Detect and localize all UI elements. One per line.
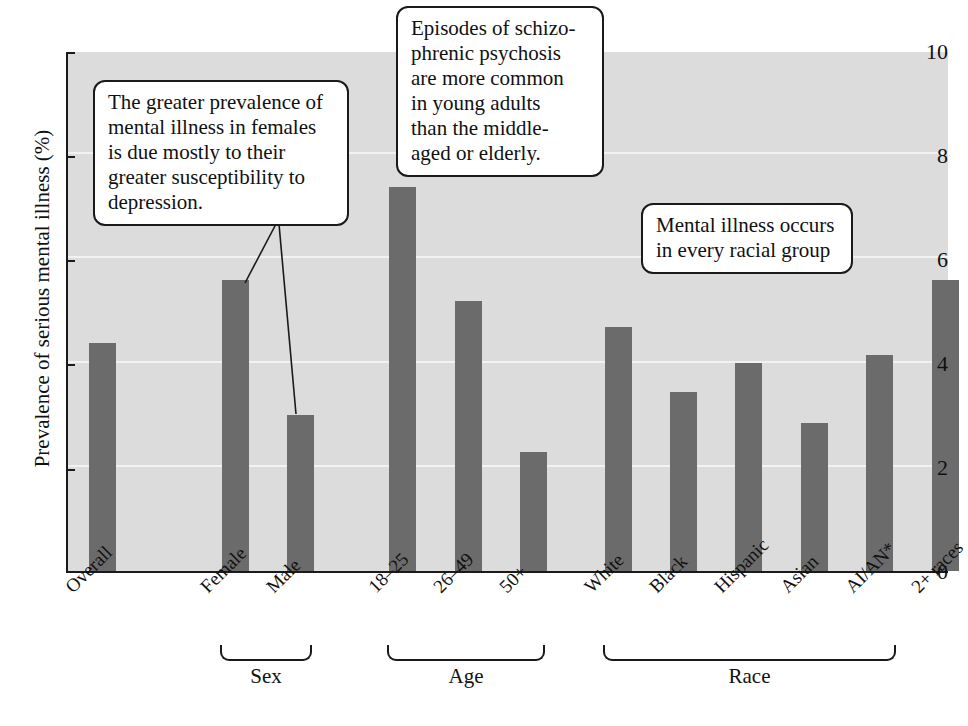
y-tick-mark-4 [66,364,75,366]
callout-race-line-1: Mental illness occurs [656,213,839,238]
bar-18-25 [389,187,416,571]
bar-black [670,392,697,571]
y-tick-mark-8 [66,156,75,158]
y-tick-label-4: 4 [908,353,948,375]
bracket-age [387,645,545,661]
callout-age-line-1: Episodes of schizo- [411,16,590,41]
callout-sex: The greater prevalence of mental illness… [93,80,349,226]
bracket-sex [220,645,312,661]
gridline-4 [68,361,948,363]
bar-white [605,327,632,571]
y-tick-label-10: 10 [908,41,948,63]
bar-overall [89,343,116,571]
y-tick-mark-6 [66,260,75,262]
bar-female [222,280,249,571]
y-tick-mark-10 [66,52,75,54]
callout-sex-line-2: mental illness in females [108,115,335,140]
callout-sex-line-1: The greater prevalence of [108,90,335,115]
y-tick-mark-2 [66,469,75,471]
y-axis-title: Prevalence of serious mental illness (%) [30,39,55,559]
callout-race: Mental illness occurs in every racial gr… [641,203,853,274]
bar-50-plus [520,452,547,571]
callout-race-line-2: in every racial group [656,238,839,263]
callout-age-line-3: are more common [411,66,590,91]
group-label-race: Race [603,664,896,689]
callout-age-line-4: in young adults [411,91,590,116]
callout-age-line-6: aged or elderly. [411,141,590,166]
y-tick-label-6: 6 [908,249,948,271]
bar-2-plus [932,280,959,571]
bar-asian [801,423,828,571]
bar-ai-an [866,355,893,571]
bar-26-49 [455,301,482,571]
callout-age-line-5: than the middle- [411,116,590,141]
y-tick-label-8: 8 [908,145,948,167]
bar-male [287,415,314,571]
callout-age: Episodes of schizo- phrenic psychosis ar… [396,6,604,177]
y-tick-label-2: 2 [908,457,948,479]
group-label-age: Age [387,664,545,689]
callout-sex-line-4: greater susceptibility to [108,165,335,190]
group-label-sex: Sex [220,664,312,689]
bracket-race [603,645,896,661]
callout-sex-line-3: is due mostly to their [108,140,335,165]
callout-age-line-2: phrenic psychosis [411,41,590,66]
callout-sex-line-5: depression. [108,190,335,215]
